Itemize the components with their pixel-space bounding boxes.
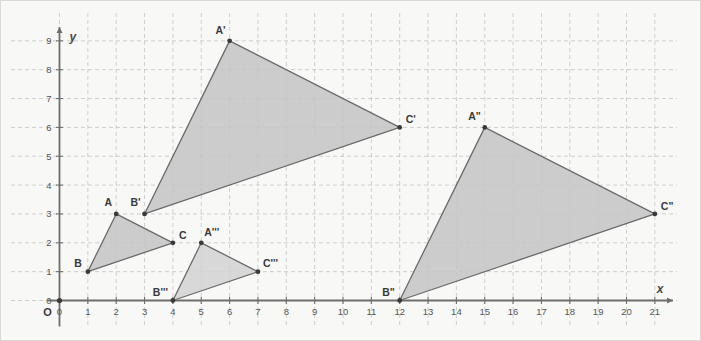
x-tick-label: 4 xyxy=(170,306,175,317)
y-tick-label: 4 xyxy=(46,180,51,191)
vertex-point xyxy=(397,125,402,130)
coordinate-plot-svg: 0123456789101112131415161718192021012345… xyxy=(1,1,701,341)
vertex-label: C" xyxy=(661,200,674,212)
x-tick-label: 11 xyxy=(366,306,376,317)
x-tick-label: 6 xyxy=(227,306,232,317)
y-tick-label: 7 xyxy=(46,93,51,104)
vertex-point xyxy=(85,269,90,274)
x-tick-label: 19 xyxy=(593,306,604,317)
x-tick-label: 8 xyxy=(284,306,289,317)
vertex-label: B' xyxy=(130,196,140,208)
x-tick-label: 12 xyxy=(394,306,405,317)
x-tick-label: 0 xyxy=(57,306,62,317)
x-tick-label: 10 xyxy=(338,306,349,317)
y-tick-label: 5 xyxy=(46,151,51,162)
vertex-point xyxy=(114,212,119,217)
vertex-point xyxy=(256,269,261,274)
x-tick-label: 1 xyxy=(85,306,90,317)
vertex-point xyxy=(142,212,147,217)
x-tick-label: 16 xyxy=(508,306,519,317)
vertex-label: A xyxy=(105,196,113,208)
vertex-label: A''' xyxy=(204,226,219,238)
vertex-label: C''' xyxy=(263,257,278,269)
y-tick-label: 6 xyxy=(46,122,51,133)
y-tick-label: 3 xyxy=(46,208,51,219)
y-tick-label: 1 xyxy=(46,266,51,277)
vertex-label: B''' xyxy=(153,286,168,298)
x-tick-label: 9 xyxy=(312,306,317,317)
vertex-label: B" xyxy=(382,286,395,298)
triangle-ABC xyxy=(88,214,173,272)
x-tick-label: 15 xyxy=(479,306,490,317)
y-axis-name-label: y xyxy=(69,30,78,44)
origin-label: O xyxy=(43,306,52,318)
vertex-label: A" xyxy=(468,110,481,122)
vertex-point xyxy=(171,240,176,245)
x-axis-name-label: x xyxy=(656,282,665,296)
x-tick-label: 3 xyxy=(142,306,147,317)
x-tick-label: 7 xyxy=(255,306,260,317)
vertex-point xyxy=(199,240,204,245)
vertex-point xyxy=(171,298,176,303)
y-axis-arrow xyxy=(57,27,63,33)
vertex-point xyxy=(482,125,487,130)
y-tick-label: 9 xyxy=(46,35,51,46)
y-tick-label: 0 xyxy=(46,295,51,306)
vertex-point xyxy=(227,38,232,43)
vertex-point xyxy=(397,298,402,303)
x-axis-arrow xyxy=(667,298,673,304)
x-tick-label: 2 xyxy=(114,306,119,317)
y-tick-label: 2 xyxy=(46,237,51,248)
x-tick-label: 17 xyxy=(536,306,547,317)
y-tick-label: 8 xyxy=(46,64,51,75)
origin-dot xyxy=(57,298,62,303)
vertex-point xyxy=(652,212,657,217)
vertex-label: C' xyxy=(406,113,416,125)
x-tick-label: 21 xyxy=(650,306,661,317)
triangle-A-triple-prime-B-triple-prime-C-triple-prime xyxy=(173,243,258,301)
x-tick-label: 13 xyxy=(423,306,434,317)
vertex-label: B xyxy=(74,257,82,269)
x-tick-label: 5 xyxy=(199,306,204,317)
coordinate-plane-figure: 0123456789101112131415161718192021012345… xyxy=(0,0,701,341)
grid-layer xyxy=(11,13,677,327)
x-tick-label: 18 xyxy=(565,306,576,317)
vertex-label: A' xyxy=(216,24,226,36)
triangle-A-double-prime-B-double-prime-C-double-prime xyxy=(400,127,655,300)
x-tick-label: 20 xyxy=(621,306,632,317)
vertex-label: C xyxy=(179,229,187,241)
vertex-labels-layer: ABCA'B'C'A"B"C"A'''B'''C''' xyxy=(74,24,673,298)
x-tick-label: 14 xyxy=(451,306,462,317)
